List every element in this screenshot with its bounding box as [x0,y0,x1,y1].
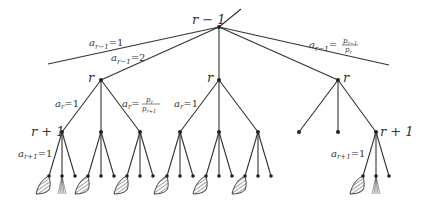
r-middle-label: r [207,70,214,85]
r-plus-1-right-label: r + 1 [380,124,414,139]
r-left-label: r [88,70,95,85]
svg-text:ar+1=1: ar+1=1 [331,148,365,161]
r-right-edges [299,80,376,132]
edge-label-a-r-minus-1-eq-2: ar−1=2 [111,52,145,66]
edge-label-a-r-frac: ar= pr pr+1 [122,96,160,114]
hatched-blob-icon [154,176,168,194]
edge-label-a-r-minus-1-frac: ar−1= pr−1 pr [309,37,358,55]
hatched-subtree-blobs [36,176,364,194]
hatched-blob-icon [232,176,246,194]
r-node-right [336,78,340,82]
hatched-blob-icon [75,176,89,194]
edge-label-a-r-plus-1-eq-1-right: ar+1=1 [331,148,365,161]
edge-label-a-r-eq-1-middle: ar=1 [174,98,198,111]
fan-left [58,176,66,194]
svg-text:ar=1: ar=1 [55,98,79,111]
svg-text:ar−1=: ar−1= [309,39,337,53]
edge-root-to-r-right [219,27,338,80]
edge-label-a-r-eq-1-left: ar=1 [55,98,79,111]
svg-text:pr: pr [345,46,352,55]
hatched-blob-icon [36,176,50,194]
hatched-blob-icon [114,176,128,194]
svg-text:ar−1=2: ar−1=2 [111,52,145,66]
fan-right [372,176,380,194]
hatched-blob-icon [350,176,364,194]
edge-label-a-r-plus-1-eq-1-left: ar+1=1 [18,148,52,161]
edge-root-to-right-trunc [219,27,389,65]
svg-text:ar=: ar= [122,98,140,111]
r-plus-1-left-label: r + 1 [31,124,65,139]
r-node-left [99,78,103,82]
svg-text:ar+1=1: ar+1=1 [18,148,52,161]
svg-text:pr−1: pr−1 [343,37,357,46]
tree-diagram: r − 1 r r r r + 1 r + 1 ar−1=1 ar−1=2 ar… [0,0,421,207]
svg-text:pr: pr [146,96,153,105]
hatched-blob-icon [193,176,207,194]
r-right-label: r [343,70,350,85]
edge-root-to-r-left [101,27,219,80]
root-label: r − 1 [192,12,226,27]
r-node-middle [217,78,221,82]
tree-svg: r − 1 r r r r + 1 r + 1 ar−1=1 ar−1=2 ar… [0,0,421,207]
svg-text:ar=1: ar=1 [174,98,198,111]
svg-text:pr+1: pr+1 [142,105,156,114]
